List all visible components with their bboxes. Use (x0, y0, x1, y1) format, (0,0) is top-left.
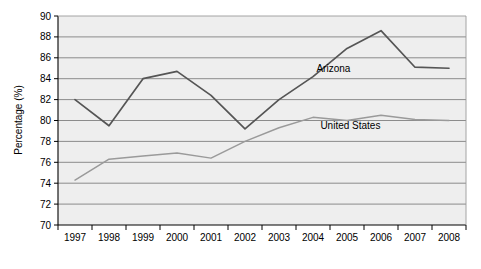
y-tick-label: 76 (40, 157, 52, 168)
x-tick-label: 2002 (234, 232, 257, 243)
y-tick-label: 70 (40, 220, 52, 231)
x-tick-label: 1998 (98, 232, 121, 243)
x-tick-label: 2005 (336, 232, 359, 243)
y-tick-label: 74 (40, 178, 52, 189)
x-tick-label: 2001 (200, 232, 223, 243)
line-chart: 7072747678808284868890 19971998199920002… (0, 0, 481, 269)
y-axis-title: Percentage (%) (13, 85, 24, 154)
y-tick-label: 86 (40, 52, 52, 63)
x-axis-tick-marks (58, 225, 466, 230)
y-tick-label: 72 (40, 199, 52, 210)
x-axis-tick-labels: 1997199819992000200120022003200420052006… (64, 232, 461, 243)
series-label-united-states: United States (320, 120, 380, 131)
series-label-arizona: Arizona (316, 63, 350, 74)
y-tick-label: 78 (40, 136, 52, 147)
y-axis-tick-marks (54, 16, 58, 225)
chart-canvas: 7072747678808284868890 19971998199920002… (0, 0, 481, 269)
x-tick-label: 1997 (64, 232, 87, 243)
y-tick-label: 80 (40, 115, 52, 126)
x-tick-label: 2000 (166, 232, 189, 243)
y-tick-label: 84 (40, 73, 52, 84)
x-tick-label: 2003 (268, 232, 291, 243)
x-tick-label: 2006 (370, 232, 393, 243)
y-tick-label: 82 (40, 94, 52, 105)
y-tick-label: 90 (40, 11, 52, 22)
y-axis-tick-labels: 7072747678808284868890 (40, 11, 52, 231)
x-tick-label: 2004 (302, 232, 325, 243)
y-tick-label: 88 (40, 31, 52, 42)
x-tick-label: 1999 (132, 232, 155, 243)
x-tick-label: 2008 (438, 232, 461, 243)
x-tick-label: 2007 (404, 232, 427, 243)
